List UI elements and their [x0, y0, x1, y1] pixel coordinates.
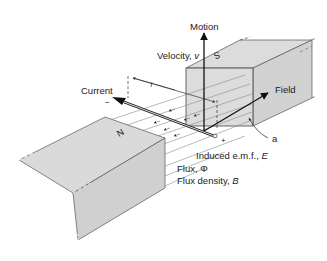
emf-symbol: E	[261, 150, 267, 161]
velocity-text: Velocity,	[157, 50, 194, 61]
flux-density-symbol: B	[232, 175, 238, 186]
velocity-label: Velocity, v	[157, 51, 199, 61]
a-label: a	[272, 134, 277, 144]
minus-terminal-label: −	[105, 99, 110, 107]
conductor-in-magnetic-field-diagram: S	[0, 0, 327, 261]
flux-label: Flux, Φ	[177, 164, 208, 174]
current-label: Current	[81, 86, 113, 96]
emf-label: Induced e.m.f., E	[196, 151, 268, 161]
flux-density-label: Flux density, B	[177, 176, 239, 186]
current-arrowhead	[112, 97, 126, 105]
motion-label: Motion	[190, 22, 219, 32]
plus-terminal-label: +	[221, 137, 226, 145]
emf-text: Induced e.m.f.,	[196, 150, 261, 161]
flux-density-text: Flux density,	[177, 175, 232, 186]
field-label: Field	[275, 85, 296, 95]
north-magnet: N	[19, 117, 165, 240]
velocity-symbol: v	[194, 50, 199, 61]
